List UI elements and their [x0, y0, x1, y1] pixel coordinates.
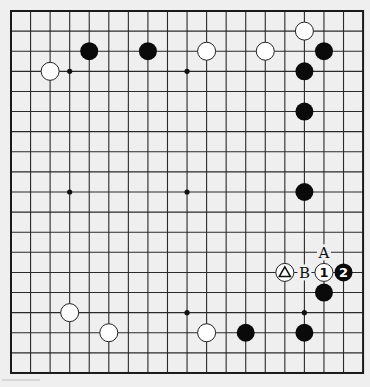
black-stone-body: [295, 183, 313, 201]
hoshi-point: [184, 69, 189, 74]
black-stone: 2: [335, 263, 353, 281]
white-stone: [100, 324, 118, 342]
white-stone-body: [61, 304, 79, 322]
point-label-a: A: [318, 244, 330, 262]
white-stone: [61, 304, 79, 322]
black-stone: [139, 42, 157, 60]
black-stone: [315, 42, 333, 60]
black-stone-body: [295, 324, 313, 342]
black-stone-body: [295, 103, 313, 121]
hoshi-point: [67, 189, 72, 194]
white-stone: [256, 42, 274, 60]
white-stone: 1: [315, 263, 333, 281]
white-stone: [198, 42, 216, 60]
black-stone: [295, 103, 313, 121]
white-stone-body: [100, 324, 118, 342]
hoshi-point: [302, 310, 307, 315]
black-stone: [315, 284, 333, 302]
hoshi-point: [184, 189, 189, 194]
go-board: 12 AB: [0, 0, 370, 387]
white-stone: [276, 263, 294, 281]
white-stone: [41, 62, 59, 80]
black-stone-body: [315, 42, 333, 60]
black-stone-body: [237, 324, 255, 342]
black-stone-body: [295, 62, 313, 80]
go-board-diagram: 12 AB: [0, 0, 370, 387]
stones: 12: [41, 22, 352, 342]
white-stone-body: [295, 22, 313, 40]
black-stone: [80, 42, 98, 60]
black-stone: [295, 324, 313, 342]
white-stone-body: [198, 42, 216, 60]
hoshi-point: [67, 69, 72, 74]
black-stone: [295, 62, 313, 80]
white-stone: [295, 22, 313, 40]
black-stone-body: [80, 42, 98, 60]
point-label-b: B: [299, 264, 310, 282]
black-stone-body: [139, 42, 157, 60]
white-stone-body: [256, 42, 274, 60]
black-stone: [295, 183, 313, 201]
hoshi-point: [184, 310, 189, 315]
black-stone-body: [315, 284, 333, 302]
white-stone-body: [198, 324, 216, 342]
move-number: 1: [319, 265, 328, 280]
white-stone-body: [41, 62, 59, 80]
white-stone: [198, 324, 216, 342]
move-number: 2: [339, 265, 348, 280]
black-stone: [237, 324, 255, 342]
